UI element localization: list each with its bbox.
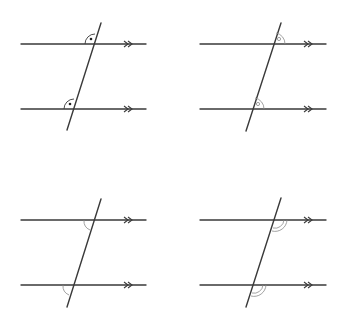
transversal-line: [67, 199, 101, 307]
angle-arc-lower: [63, 285, 69, 295]
panel-top-right: [200, 23, 326, 131]
figure-canvas: [0, 0, 347, 317]
transversal-line: [67, 23, 101, 130]
angle-arc-upper: [84, 220, 90, 230]
angle-arc-upper-outer: [272, 220, 287, 231]
panel-bottom-right: [200, 198, 326, 307]
angle-arc-upper-inner: [273, 220, 284, 228]
transversal-line: [246, 198, 281, 307]
angle-dot-upper: [90, 38, 93, 41]
angle-dot-lower: [69, 103, 72, 106]
transversal-line: [246, 23, 281, 131]
panel-bottom-left: [21, 199, 146, 307]
angle-arc-lower-inner: [252, 285, 263, 293]
angle-circle-upper: [277, 37, 280, 40]
panel-top-left: [21, 23, 146, 130]
angle-circle-lower: [256, 102, 259, 105]
